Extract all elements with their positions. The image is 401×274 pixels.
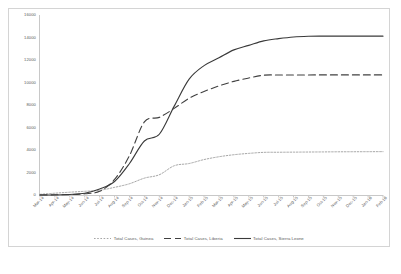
x-axis-tick-label: Oct-14: [137, 196, 149, 208]
chart-plot-wrapper: 0200040006000800010000120001400016000 Ma…: [9, 9, 389, 246]
x-axis-tick-label: Mar-15: [212, 196, 224, 208]
y-axis-tick-label: 12000: [24, 58, 36, 62]
x-axis: Mar-14Apr-14May-14Jun-14Jul-14Aug-14Sep-…: [39, 196, 383, 230]
x-axis-tick-label: Feb-16: [376, 196, 388, 208]
plot-area: [39, 15, 383, 196]
legend-swatch: [164, 237, 181, 240]
x-axis-tick-label: Jul-14: [94, 196, 105, 207]
x-axis-tick-label: May-14: [62, 196, 75, 209]
legend-label: Total Cases, Sierra Leone: [253, 236, 304, 241]
x-axis-tick-label: Jun-15: [257, 196, 269, 208]
legend-swatch: [94, 237, 111, 240]
x-axis-tick-label: Nov-15: [331, 196, 343, 208]
series-canvas: [40, 15, 383, 195]
chart-container: 0200040006000800010000120001400016000 Ma…: [8, 8, 390, 247]
x-axis-tick-label: Nov-14: [152, 196, 164, 208]
series-line: [40, 36, 383, 195]
x-axis-tick-label: Dec-15: [346, 196, 358, 208]
y-axis-tick-label: 0: [34, 193, 36, 197]
x-axis-tick-label: Feb-15: [197, 196, 209, 208]
x-axis-tick-label: Apr-14: [48, 196, 60, 208]
x-axis-tick-label: Jan-15: [182, 196, 194, 208]
x-axis-tick-label: Sep-15: [301, 196, 313, 208]
x-axis-tick-label: Apr-15: [227, 196, 239, 208]
y-axis-tick-label: 16000: [24, 13, 36, 17]
y-axis-tick-label: 14000: [24, 35, 36, 39]
x-axis-tick-label: May-15: [241, 196, 254, 209]
x-axis-tick-label: Sep-14: [122, 196, 134, 208]
legend-swatch: [234, 237, 251, 240]
y-axis-tick-label: 10000: [24, 80, 36, 84]
y-axis-tick-label: 4000: [26, 148, 36, 152]
x-axis-tick-label: Dec-14: [167, 196, 179, 208]
chart-legend: Total Cases, GuineaTotal Cases, LiberiaT…: [9, 232, 389, 244]
series-line: [40, 152, 383, 195]
x-axis-tick-label: Jun-14: [78, 196, 90, 208]
x-axis-tick-label: Aug-14: [107, 196, 119, 208]
legend-item[interactable]: Total Cases, Liberia: [164, 236, 222, 241]
x-axis-tick-label: Oct-15: [316, 196, 328, 208]
y-axis-tick-label: 6000: [26, 125, 36, 129]
y-axis-tick-label: 2000: [26, 170, 36, 174]
legend-label: Total Cases, Guinea: [114, 236, 154, 241]
x-axis-tick-label: Jul-15: [272, 196, 283, 207]
legend-item[interactable]: Total Cases, Guinea: [94, 236, 153, 241]
legend-item[interactable]: Total Cases, Sierra Leone: [234, 236, 304, 241]
legend-label: Total Cases, Liberia: [184, 236, 223, 241]
x-axis-tick-label: Jan-16: [361, 196, 373, 208]
y-axis-tick-label: 8000: [26, 103, 36, 107]
series-line: [40, 75, 383, 195]
y-axis: 0200040006000800010000120001400016000: [9, 9, 36, 246]
x-axis-tick-label: Aug-15: [286, 196, 298, 208]
